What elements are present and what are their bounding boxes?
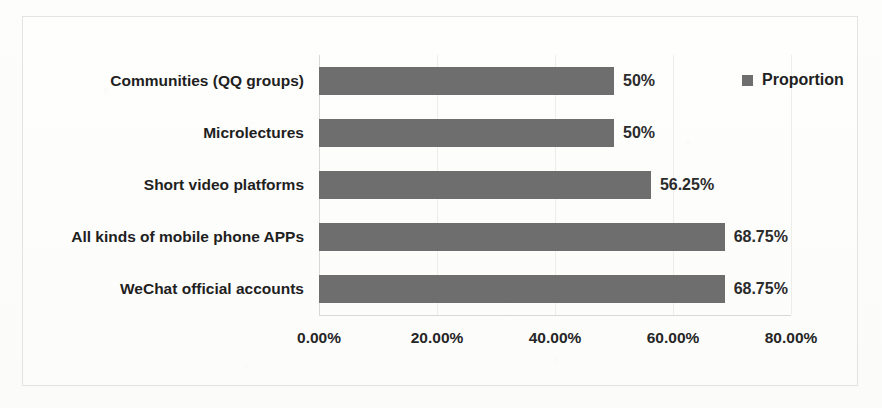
x-tick-label: 20.00% (411, 327, 464, 349)
category-label-slot: All kinds of mobile phone APPs (8, 211, 311, 263)
bar[interactable] (319, 275, 725, 303)
bar-row: 56.25% (319, 159, 791, 211)
gridline-80.00% (791, 55, 792, 315)
bar-row: 50% (319, 107, 791, 159)
bar-row: 50% (319, 55, 791, 107)
bar-value-label: 56.25% (660, 172, 714, 198)
bar-value-label: 68.75% (734, 224, 788, 250)
category-axis-line (319, 315, 791, 316)
x-tick-label: 40.00% (529, 327, 582, 349)
x-tick-label: 80.00% (765, 327, 818, 349)
category-label-slot: Short video platforms (8, 159, 311, 211)
bar[interactable] (319, 171, 651, 199)
category-label-slot: Microlectures (8, 107, 311, 159)
bar[interactable] (319, 67, 614, 95)
category-label: All kinds of mobile phone APPs (4, 224, 304, 250)
category-label: Short video platforms (4, 172, 304, 198)
chart-legend: Proportion (742, 70, 844, 90)
legend-swatch-proportion (742, 75, 753, 86)
category-label: WeChat official accounts (4, 276, 304, 302)
bar-row: 68.75% (319, 263, 791, 315)
category-label: Microlectures (4, 120, 304, 146)
x-tick-label: 60.00% (647, 327, 700, 349)
bar-value-label: 68.75% (734, 276, 788, 302)
category-label-slot: WeChat official accounts (8, 263, 311, 315)
bar-value-label: 50% (623, 120, 655, 146)
category-axis-labels: Communities (QQ groups)MicrolecturesShor… (8, 55, 311, 315)
legend-label-proportion: Proportion (762, 70, 844, 90)
x-tick-label: 0.00% (297, 327, 341, 349)
category-label-slot: Communities (QQ groups) (8, 55, 311, 107)
bar-value-label: 50% (623, 68, 655, 94)
bar[interactable] (319, 223, 725, 251)
bar-row: 68.75% (319, 211, 791, 263)
plot-area: 50%50%56.25%68.75%68.75% (319, 55, 791, 315)
category-label: Communities (QQ groups) (4, 68, 304, 94)
bar[interactable] (319, 119, 614, 147)
